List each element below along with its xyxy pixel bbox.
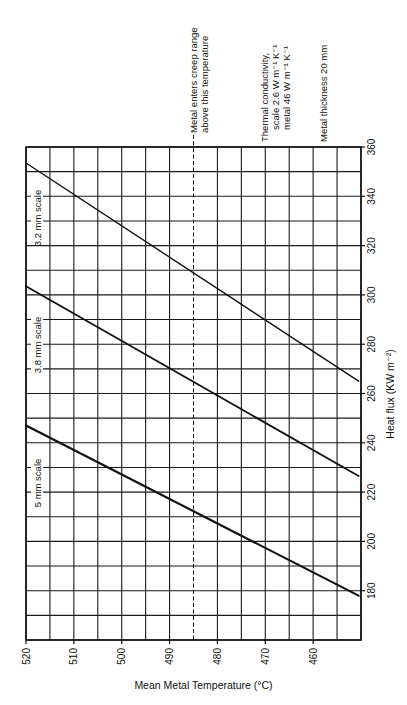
- series-label: 5 mm scale: [32, 459, 43, 508]
- temperature-axis-ticks: 520510500490480470460: [21, 640, 319, 665]
- series-label: 3.2 mm scale: [32, 190, 43, 247]
- heat-flux-tick-label: 200: [366, 533, 377, 550]
- series-line: [26, 163, 359, 381]
- creep-annotation-line: Metal enters creep range: [188, 27, 199, 133]
- heat-flux-tick-label: 280: [366, 335, 377, 352]
- temperature-tick-label: 480: [212, 648, 223, 665]
- temperature-tick-label: 490: [164, 648, 175, 665]
- conductivity-annotation-line: metal 46 W m⁻¹ K⁻¹: [281, 46, 292, 130]
- temperature-axis-title: Mean Metal Temperature (°C): [0, 679, 407, 691]
- heat-flux-tick-label: 340: [366, 188, 377, 205]
- temperature-tick-label: 460: [308, 648, 319, 665]
- series-label: 3.8 mm scale: [32, 317, 43, 374]
- annotations: Metal enters creep rangeabove this tempe…: [188, 27, 330, 142]
- conductivity-annotation-line: Thermal conductivity,: [259, 53, 270, 142]
- data-series: [26, 163, 359, 596]
- conductivity-annotation-line: scale 2.6 W m⁻¹ K⁻¹: [270, 45, 281, 131]
- heat-flux-chart: 520510500490480470460 180200220240260280…: [0, 0, 407, 705]
- heat-flux-tick-label: 360: [366, 138, 377, 155]
- temperature-tick-label: 500: [116, 648, 127, 665]
- creep-annotation-line: above this temperature: [199, 36, 210, 133]
- series-line: [26, 286, 359, 476]
- series-labels: 5 mm scale3.8 mm scale3.2 mm scale: [31, 190, 43, 510]
- heat-flux-tick-label: 300: [366, 286, 377, 303]
- heat-flux-tick-label: 240: [366, 434, 377, 451]
- temperature-tick-label: 520: [21, 648, 32, 665]
- heat-flux-tick-label: 220: [366, 483, 377, 500]
- heat-flux-axis-title: Heat flux (KW m⁻²): [384, 349, 396, 438]
- temperature-tick-label: 510: [68, 648, 79, 665]
- heat-flux-tick-label: 180: [366, 582, 377, 599]
- heat-flux-tick-label: 260: [366, 385, 377, 402]
- temperature-tick-label: 470: [260, 648, 271, 665]
- heat-flux-tick-label: 320: [366, 237, 377, 254]
- heat-flux-axis-ticks: 180200220240260280300320340360: [361, 138, 377, 599]
- series-line: [26, 426, 359, 596]
- thickness-annotation: Metal thickness 20 mm: [318, 45, 329, 142]
